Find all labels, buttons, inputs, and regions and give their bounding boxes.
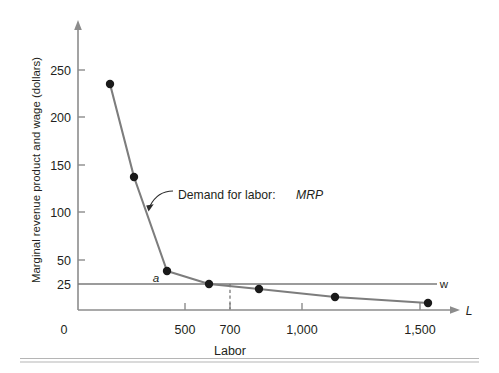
x-tick-label-500: 500 — [175, 323, 196, 337]
data-point — [255, 285, 263, 293]
data-point — [106, 80, 114, 88]
curve-annotation-emphasis: MRP — [296, 188, 324, 202]
x-axis-title: Labor — [214, 344, 246, 358]
x-tick-label-1000: 1,000 — [286, 323, 317, 337]
point-a-label: a — [153, 271, 160, 284]
labor-demand-chart: 250 200 150 100 50 25 0 500 700 1,000 1,… — [0, 0, 499, 373]
y-tick-label-200: 200 — [50, 111, 71, 125]
y-axis-title: Marginal revenue product and wage (dolla… — [30, 57, 42, 283]
data-point — [205, 280, 213, 288]
data-point — [130, 173, 138, 181]
curve-annotation-text: Demand for labor: — [178, 188, 276, 202]
y-tick-label-25: 25 — [57, 278, 71, 292]
x-axis-ticks — [185, 303, 420, 310]
y-tick-label-250: 250 — [50, 64, 71, 78]
y-tick-label-150: 150 — [50, 159, 71, 173]
y-tick-label-100: 100 — [50, 206, 71, 220]
x-axis-arrowhead — [450, 306, 460, 314]
x-tick-label-1500: 1,500 — [404, 323, 435, 337]
x-axis-tick-labels: 500 700 1,000 1,500 — [175, 323, 436, 337]
y-tick-label-50: 50 — [57, 254, 71, 268]
annotation-leader-line — [150, 191, 173, 206]
curve-annotation: Demand for labor: MRP — [178, 188, 324, 202]
annotation-leader — [146, 191, 173, 212]
annotation-leader-arrowhead — [146, 204, 154, 211]
data-point — [163, 267, 171, 275]
wage-line-label: w — [439, 278, 449, 290]
figure-container: 250 200 150 100 50 25 0 500 700 1,000 1,… — [0, 0, 499, 373]
y-axis-arrowhead — [74, 20, 82, 30]
origin-label: 0 — [61, 323, 68, 337]
data-point — [331, 293, 339, 301]
x-axis — [78, 306, 460, 314]
data-point — [424, 299, 432, 307]
y-axis-tick-labels: 250 200 150 100 50 25 — [50, 64, 71, 292]
x-tick-label-700: 700 — [220, 323, 241, 337]
bottom-rule — [20, 359, 479, 363]
y-axis-ticks — [78, 70, 85, 260]
x-axis-variable-label: L — [466, 304, 473, 318]
